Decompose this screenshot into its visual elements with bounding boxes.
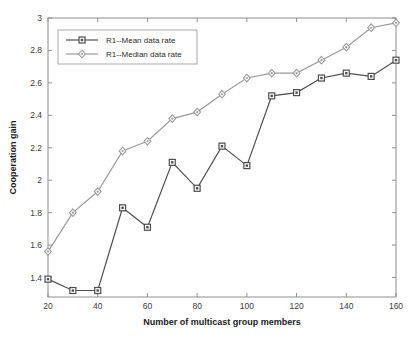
- y-tick-label: 3: [37, 13, 42, 23]
- chart-figure: 20406080100120140160 1.41.61.822.22.42.6…: [0, 0, 419, 338]
- y-tick-label: 1.6: [30, 240, 42, 250]
- y-tick-label: 2: [37, 175, 42, 185]
- data-point-marker: [119, 147, 126, 155]
- data-point-marker: [79, 37, 85, 43]
- data-point-marker: [268, 69, 275, 77]
- data-point-marker: [194, 185, 200, 191]
- x-tick-label: 20: [43, 301, 53, 311]
- x-tick-label: 80: [192, 301, 202, 311]
- data-point-marker: [318, 56, 325, 64]
- y-tick-label: 2.2: [30, 143, 42, 153]
- data-point-marker: [393, 57, 399, 63]
- x-tick-label: 160: [389, 301, 403, 311]
- data-point-marker: [219, 90, 226, 98]
- data-point-marker: [269, 93, 275, 99]
- data-point-marker: [70, 288, 76, 294]
- legend-label: R1--Median data rate: [106, 50, 182, 59]
- data-point-marker: [368, 24, 375, 32]
- x-tick-label: 60: [143, 301, 153, 311]
- data-point-marker: [294, 90, 300, 96]
- axis-labels-layer: Number of multicast group membersCoopera…: [8, 121, 301, 328]
- line-chart: 20406080100120140160 1.41.61.822.22.42.6…: [0, 0, 419, 338]
- data-point-marker: [244, 163, 250, 169]
- y-tick-label: 2.8: [30, 45, 42, 55]
- x-tick-label: 120: [289, 301, 303, 311]
- data-point-marker: [144, 224, 150, 230]
- y-axis-title: Cooperation gain: [8, 121, 18, 195]
- y-tick-label: 1.8: [30, 208, 42, 218]
- legend-label: R1--Mean data rate: [106, 36, 176, 45]
- data-point-marker: [368, 73, 374, 79]
- chart-legend: R1--Mean data rateR1--Median data rate: [58, 30, 197, 64]
- data-point-marker: [194, 108, 201, 116]
- x-tick-label: 140: [339, 301, 353, 311]
- data-point-marker: [293, 69, 300, 77]
- y-tick-label: 2.4: [30, 110, 42, 120]
- data-point-marker: [169, 159, 175, 165]
- x-tick-label: 100: [240, 301, 254, 311]
- y-tick-label: 1.4: [30, 273, 42, 283]
- data-point-marker: [343, 70, 349, 76]
- data-point-marker: [243, 74, 250, 82]
- data-point-marker: [120, 205, 126, 211]
- y-tick-label: 2.6: [30, 78, 42, 88]
- data-point-marker: [95, 288, 101, 294]
- x-axis-title: Number of multicast group members: [143, 317, 301, 327]
- data-point-marker: [393, 19, 400, 27]
- data-point-marker: [45, 276, 51, 282]
- x-tick-label: 40: [93, 301, 103, 311]
- data-point-marker: [219, 143, 225, 149]
- data-point-marker: [343, 43, 350, 51]
- data-point-marker: [318, 75, 324, 81]
